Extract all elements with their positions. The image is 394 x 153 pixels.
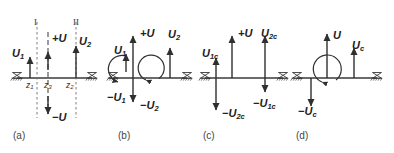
support-right-c — [277, 73, 288, 81]
panel-tag-b: (b) — [118, 131, 130, 141]
label-minusU-a: −U — [52, 112, 66, 123]
beam-force-diagram: I II U1 +U −U U2 z1 z3 z2 (a) U1 −U1 +U … — [0, 0, 394, 153]
label-plusU-b: +U — [140, 28, 154, 39]
support-right-d — [371, 73, 382, 81]
support-left-c — [199, 73, 210, 81]
label-Uc-d: Uc — [352, 40, 364, 52]
label-U-d: U — [333, 30, 341, 41]
support-left-d — [291, 73, 302, 81]
panel-d-graphics — [291, 34, 382, 106]
section-marker-II: II — [73, 18, 79, 27]
support-left-a — [11, 73, 22, 81]
station-label-z2: z2 — [66, 81, 74, 90]
panel-tag-d: (d) — [296, 131, 308, 141]
label-minusU2c-c: −U2c — [222, 108, 245, 120]
station-label-z1: z1 — [26, 81, 34, 90]
label-minusU2-b: −U2 — [140, 100, 159, 112]
station-label-z3: z3 — [44, 81, 52, 90]
label-minusU1-b: −U1 — [107, 92, 126, 104]
section-marker-I: I — [34, 18, 37, 27]
label-U2-a: U2 — [79, 36, 91, 48]
diagram-graphics — [0, 0, 394, 153]
panel-tag-c: (c) — [203, 131, 215, 141]
label-plusU-a: +U — [52, 33, 66, 44]
label-U1-b: U1 — [114, 45, 126, 57]
label-U2-b: U2 — [168, 29, 180, 41]
large-moment-arc-b — [138, 55, 164, 80]
label-U1-a: U1 — [12, 48, 24, 60]
label-minusU1c-c: −U1c — [253, 98, 276, 110]
label-U2c-c: U2c — [261, 28, 277, 40]
support-right-b — [181, 73, 192, 81]
panel-tag-a: (a) — [13, 131, 25, 141]
label-plusU-c: +U — [238, 28, 252, 39]
label-U1c-c: U1c — [202, 48, 218, 60]
label-minusUc-d: −Uc — [298, 106, 317, 118]
support-right-a — [86, 73, 97, 81]
